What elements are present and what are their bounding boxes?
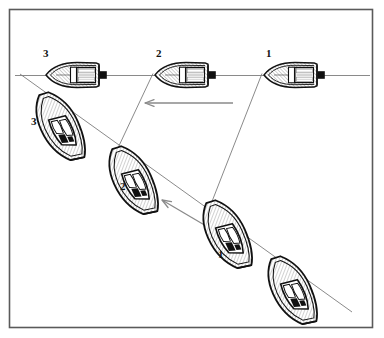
label-perspective-3: 3 [31, 115, 37, 127]
figure-background [0, 0, 384, 338]
label-plan-3: 3 [43, 47, 49, 59]
label-plan-1: 1 [266, 47, 272, 59]
label-perspective-2: 2 [120, 180, 126, 192]
label-perspective-1: 1 [218, 248, 224, 260]
boat-maneuver-figure: 3 2 1 3 2 1 [0, 0, 384, 338]
label-plan-2: 2 [156, 47, 162, 59]
figure-canvas: 3 2 1 3 2 1 [0, 0, 384, 338]
